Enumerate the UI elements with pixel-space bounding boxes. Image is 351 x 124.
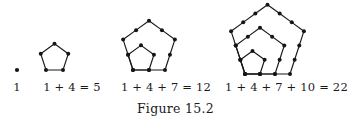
pentagon-diagram-4 [222, 0, 351, 80]
pentagon-ring-1 [41, 44, 69, 70]
vertex-dot [258, 72, 262, 76]
pentagon-diagram-3 [110, 0, 222, 80]
vertex-dot [234, 43, 238, 47]
vertex-dot [243, 72, 247, 76]
panel-label-2: 1 + 4 = 5 [34, 80, 110, 94]
vertex-dot [229, 29, 233, 33]
vertex-dot [66, 52, 70, 56]
figure-caption: Figure 15.2 [0, 101, 351, 116]
vertex-dot [297, 43, 301, 47]
vertex-dot [258, 26, 262, 30]
vertex-dot [278, 12, 282, 16]
vertex-dot [241, 20, 245, 24]
vertex-dot [288, 72, 292, 76]
pentagonal-number-panel-4: 1 + 4 + 7 + 10 = 22 [222, 0, 351, 98]
pentagon-ring-1 [240, 51, 264, 74]
vertex-dot [121, 38, 125, 42]
vertex-dot [293, 58, 297, 62]
pentagon-diagram-1 [0, 0, 34, 80]
vertex-dot [173, 38, 177, 42]
vertex-dot [251, 49, 255, 53]
vertex-dot [44, 68, 48, 72]
pentagon-ring-1 [128, 45, 154, 70]
vertex-dot [131, 68, 135, 72]
vertex-dot [253, 12, 257, 16]
vertex-dot [246, 35, 250, 39]
vertex-dot [290, 20, 294, 24]
vertex-dot [278, 58, 282, 62]
vertex-dot [302, 29, 306, 33]
vertex-dot [15, 68, 19, 72]
vertex-dot [160, 28, 164, 32]
vertex-dot [238, 58, 242, 62]
vertex-dot [152, 53, 156, 57]
vertex-dot [147, 68, 151, 72]
pentagonal-number-panel-1: 1 [0, 0, 34, 98]
vertex-dot [53, 42, 57, 46]
vertex-dot [282, 43, 286, 47]
vertex-dot [61, 68, 65, 72]
panel-label-4: 1 + 4 + 7 + 10 = 22 [222, 80, 351, 94]
vertex-dot [126, 53, 130, 57]
vertex-dot [266, 3, 270, 7]
pentagonal-number-panel-3: 1 + 4 + 7 = 12 [110, 0, 222, 98]
vertex-dot [270, 35, 274, 39]
pentagon-diagram-2 [34, 0, 110, 80]
vertex-dot [134, 28, 138, 32]
pentagonal-number-panel-2: 1 + 4 = 5 [34, 0, 110, 98]
panel-label-1: 1 [0, 80, 34, 94]
vertex-dot [39, 52, 43, 56]
panel-label-3: 1 + 4 + 7 = 12 [110, 80, 222, 94]
vertex-dot [147, 19, 151, 23]
vertex-dot [263, 58, 267, 62]
vertex-dot [168, 53, 172, 57]
vertex-dot [273, 72, 277, 76]
vertex-dot [163, 68, 167, 72]
figure-container: 1 1 + 4 = 5 1 + 4 + 7 = 12 1 + 4 + 7 + 1… [0, 0, 351, 124]
vertex-dot [139, 43, 143, 47]
